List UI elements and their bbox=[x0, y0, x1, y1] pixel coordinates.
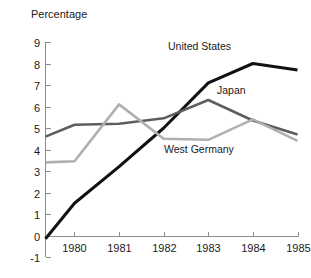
x-tick-label: 1985 bbox=[286, 242, 310, 254]
y-tick-label: 7 bbox=[34, 80, 40, 92]
series-annotations: United StatesJapanWest Germany bbox=[164, 40, 246, 155]
x-tick-label: 1984 bbox=[241, 242, 265, 254]
y-tick-label: 1 bbox=[34, 209, 40, 221]
y-tick-label: -1 bbox=[30, 252, 40, 264]
series-label-west-germany: West Germany bbox=[164, 143, 235, 155]
x-axis-tick-labels: 198019811982198319841985 bbox=[62, 242, 310, 254]
x-tick-label: 1982 bbox=[152, 242, 176, 254]
y-tick-label: 9 bbox=[34, 37, 40, 49]
y-tick-label: 8 bbox=[34, 59, 40, 71]
x-tick-label: 1980 bbox=[62, 242, 86, 254]
x-tick-label: 1983 bbox=[196, 242, 220, 254]
y-axis-tick-labels: 9876543210-1 bbox=[30, 37, 40, 264]
y-tick-label: 6 bbox=[34, 102, 40, 114]
x-tick-label: 1981 bbox=[107, 242, 131, 254]
y-tick-label: 2 bbox=[34, 188, 40, 200]
x-axis-ticks bbox=[75, 232, 299, 237]
y-tick-label: 5 bbox=[34, 123, 40, 135]
y-tick-label: 0 bbox=[34, 231, 40, 243]
y-tick-label: 4 bbox=[34, 145, 40, 157]
y-axis-title: Percentage bbox=[31, 8, 87, 20]
series-label-united-states: United States bbox=[168, 40, 231, 52]
y-axis-ticks bbox=[46, 43, 51, 258]
line-chart: Percentage 9876543210-1 1980198119821983… bbox=[0, 0, 311, 278]
y-tick-label: 3 bbox=[34, 166, 40, 178]
series-label-japan: Japan bbox=[217, 84, 246, 96]
chart-container: Percentage 9876543210-1 1980198119821983… bbox=[0, 0, 311, 278]
